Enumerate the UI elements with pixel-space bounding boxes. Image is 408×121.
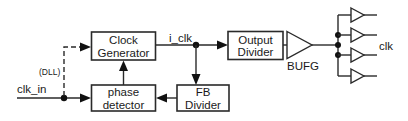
clock-generator-block: Clock Generator	[92, 32, 156, 60]
fb-divider-label-2: Divider	[185, 99, 221, 111]
dll-dashed-path	[64, 47, 84, 96]
phase-detector-label-1: phase	[108, 86, 139, 98]
output-divider-label-2: Divider	[238, 46, 274, 58]
fanout-buffer-4	[338, 69, 377, 83]
bus-junction-dot-2	[335, 42, 341, 48]
fanout-buffer-3	[338, 48, 377, 62]
phase-detector-block: phase detector	[92, 85, 156, 111]
fanout-buffer-2	[338, 28, 377, 42]
clk-output-label: clk	[379, 40, 393, 52]
arrow-to-phase-detector-feedback	[156, 94, 167, 103]
clock-generator-label-1: Clock	[109, 34, 138, 46]
clock-generator-label-2: Generator	[98, 47, 150, 59]
output-divider-block: Output Divider	[228, 32, 283, 60]
arrow-to-clock-generator	[80, 43, 91, 52]
dll-label: (DLL)	[39, 67, 60, 77]
clk-in-label: clk_in	[17, 83, 46, 95]
output-divider-label-1: Output	[238, 34, 273, 46]
clock-block-diagram: clk_in (DLL) Clock Generator phase detec…	[0, 0, 408, 121]
arrow-to-phase-detector	[80, 94, 91, 103]
i-clk-label: i_clk	[169, 32, 192, 44]
fanout-buffer-1	[338, 8, 377, 22]
bufg-buffer: BUFG	[287, 32, 319, 73]
phase-detector-label-2: detector	[103, 99, 145, 111]
bufg-label: BUFG	[287, 60, 319, 72]
arrow-up-to-clock-generator	[119, 61, 128, 72]
arrow-to-output-divider	[217, 41, 228, 50]
fb-divider-block: FB Divider	[177, 85, 229, 111]
fb-divider-label-1: FB	[196, 86, 211, 98]
arrow-down-to-fb-divider	[192, 74, 201, 85]
